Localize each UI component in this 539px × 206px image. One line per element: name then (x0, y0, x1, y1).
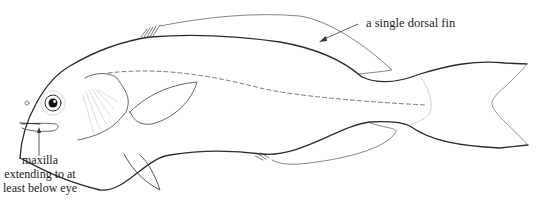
pelvic-fin (124, 154, 160, 190)
eye-pupil (49, 99, 58, 108)
lateral-line (108, 71, 425, 105)
dorsal-fin (160, 15, 392, 74)
fish-diagram: a single dorsal fin maxilla extending to… (0, 0, 539, 206)
dorsal-fin-annotation: a single dorsal fin (319, 16, 456, 42)
maxilla-label-line2: extending to at (4, 167, 76, 181)
upper-body-outline (20, 35, 527, 158)
lower-body-outline (20, 122, 528, 191)
eye-highlight (53, 100, 56, 103)
dorsal-fin-label: a single dorsal fin (366, 16, 456, 30)
dorsal-spines (141, 25, 160, 37)
operculum (78, 74, 128, 141)
maxilla-label-line3: least below eye (3, 181, 77, 195)
anal-fin (272, 123, 396, 164)
dorsal-arrow-head (319, 36, 327, 42)
caudal-fin (492, 64, 528, 145)
caudal-peduncle-line (412, 76, 431, 124)
maxilla-annotation: maxilla extending to at least below eye (3, 127, 77, 195)
nostril (25, 101, 29, 105)
dorsal-arrow-line (322, 24, 358, 40)
maxilla-arrow-head (37, 127, 41, 133)
maxilla-label-line1: maxilla (22, 153, 59, 167)
fish-body (20, 15, 528, 191)
gill-rays (83, 89, 118, 134)
pectoral-fin (130, 82, 197, 124)
